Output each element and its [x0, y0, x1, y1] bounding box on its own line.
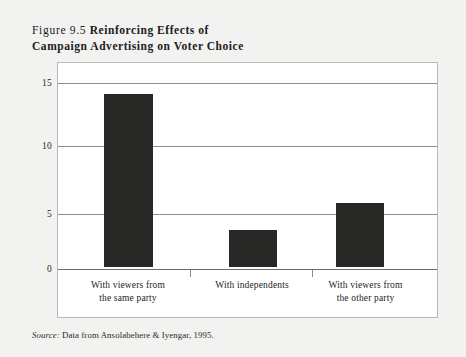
- bar-with-independents: [229, 230, 277, 267]
- x-tick-mark-1: [190, 270, 191, 277]
- figure-title-line-1: Figure 9.5 Reinforcing Effects of: [32, 22, 392, 38]
- x-axis-label-same-party-line2: the same party: [68, 292, 188, 305]
- x-axis-label-same-party: With viewers from the same party: [68, 279, 188, 304]
- figure-title-text-1: Reinforcing Effects of: [90, 24, 209, 36]
- bar-with-viewers-same-party: [104, 94, 153, 267]
- x-tick-mark-2: [312, 270, 313, 277]
- x-axis-label-same-party-line1: With viewers from: [68, 279, 188, 292]
- plot-area: Sponsoring candidate's lead 15 10 5 0 Wi…: [57, 62, 438, 318]
- figure-container: Figure 9.5 Reinforcing Effects of Campai…: [0, 0, 466, 357]
- figure-number: Figure 9.5: [32, 24, 86, 36]
- bar-with-viewers-other-party: [336, 203, 384, 267]
- y-tick-label-0: 0: [32, 264, 52, 274]
- gridline-0: [58, 269, 437, 270]
- x-axis-label-other-party-line2: the other party: [303, 292, 428, 305]
- y-tick-label-10: 10: [32, 141, 52, 151]
- x-axis-label-independents: With independents: [193, 279, 311, 292]
- gridline-15: [58, 83, 437, 84]
- x-axis-label-other-party: With viewers from the other party: [303, 279, 428, 304]
- source-label: Source:: [32, 330, 60, 340]
- x-axis-label-independents-line1: With independents: [193, 279, 311, 292]
- source-text: Data from Ansolabehere & Iyengar, 1995.: [60, 330, 214, 340]
- x-axis-label-other-party-line1: With viewers from: [303, 279, 428, 292]
- figure-title-line-2: Campaign Advertising on Voter Choice: [32, 38, 392, 54]
- y-tick-label-15: 15: [32, 78, 52, 88]
- y-tick-label-5: 5: [32, 209, 52, 219]
- source-note: Source: Data from Ansolabehere & Iyengar…: [32, 330, 214, 340]
- figure-title-block: Figure 9.5 Reinforcing Effects of Campai…: [32, 22, 392, 54]
